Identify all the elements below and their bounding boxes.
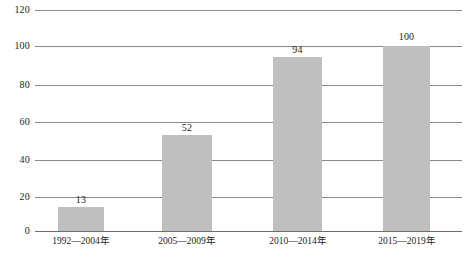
bar-value-1992-2004: 13 (58, 195, 104, 205)
x-axis-category-label-4: 2015—2019年 (352, 236, 462, 247)
x-axis-line (35, 231, 462, 232)
bar-2005-2009 (162, 135, 212, 231)
y-axis-tick-label-60: 60 (0, 117, 30, 127)
bar-1992-2004 (58, 207, 104, 231)
y-axis-tick-label-100: 100 (0, 41, 30, 51)
bar-chart: 120 100 80 60 40 20 0 13 52 94 100 1992—… (0, 0, 467, 260)
y-axis-tick-label-20: 20 (0, 192, 30, 202)
y-axis-tick-label-80: 80 (0, 80, 30, 90)
x-axis-category-label-3: 2010—2014年 (243, 236, 353, 247)
gridline-120 (35, 10, 462, 11)
y-axis-tick-label-120: 120 (0, 5, 30, 15)
x-axis-category-label-1: 1992—2004年 (26, 236, 136, 247)
bar-value-2010-2014: 94 (273, 45, 322, 55)
y-axis-tick-label-40: 40 (0, 155, 30, 165)
bar-2010-2014 (273, 57, 322, 231)
y-axis-tick-label-0: 0 (0, 226, 30, 236)
bar-value-2015-2019: 100 (383, 32, 430, 42)
bar-value-2005-2009: 52 (162, 123, 212, 133)
x-axis-category-label-2: 2005—2009年 (132, 236, 242, 247)
bar-2015-2019 (383, 46, 430, 231)
